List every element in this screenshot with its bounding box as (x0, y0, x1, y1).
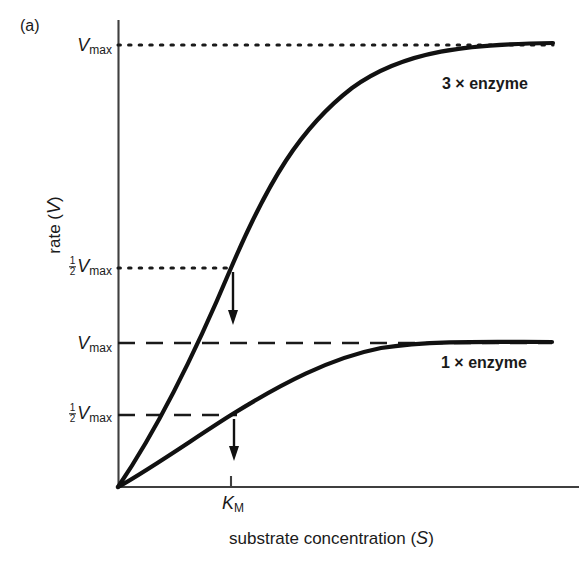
panel-label: (a) (20, 18, 40, 34)
y-axis-variable: V (44, 202, 64, 214)
vmax-subscript: max (89, 264, 112, 278)
curve-label-1x-enzyme: 1 × enzyme (441, 355, 527, 371)
y-axis-title-prefix: rate ( (45, 214, 64, 254)
x-tick-label-km: KM (222, 494, 244, 512)
curve-3x-enzyme (118, 43, 553, 487)
vmax-variable: V (77, 256, 89, 276)
vmax-variable: V (77, 35, 89, 55)
vmax-subscript: max (89, 411, 112, 425)
vmax-subscript: max (89, 43, 112, 57)
figure-panel: (a) Vmax 12Vmax Vmax 12Vmax KM substrate… (0, 0, 585, 563)
km-subscript: M (234, 501, 244, 515)
x-axis-title-prefix: substrate concentration ( (229, 529, 416, 548)
y-axis-title-suffix: ) (45, 196, 64, 202)
arrow-down-3x (228, 272, 238, 325)
y-tick-label-vmax-3x: Vmax (0, 36, 112, 54)
vmax-subscript: max (89, 341, 112, 355)
km-variable: K (222, 493, 234, 513)
one-half-fraction: 12 (69, 256, 77, 277)
y-axis-title: rate (V) (45, 165, 63, 285)
x-axis-variable: S (416, 528, 428, 548)
y-tick-label-half-vmax-1x: 12Vmax (0, 404, 112, 425)
arrow-down-1x (229, 419, 239, 461)
vmax-variable: V (77, 403, 89, 423)
x-axis-title-suffix: ) (428, 529, 434, 548)
y-tick-label-vmax-1x: Vmax (0, 334, 112, 352)
vmax-variable: V (77, 333, 89, 353)
x-axis-title: substrate concentration (S) (229, 529, 434, 547)
curve-label-3x-enzyme: 3 × enzyme (442, 76, 528, 92)
one-half-fraction: 12 (69, 403, 77, 424)
